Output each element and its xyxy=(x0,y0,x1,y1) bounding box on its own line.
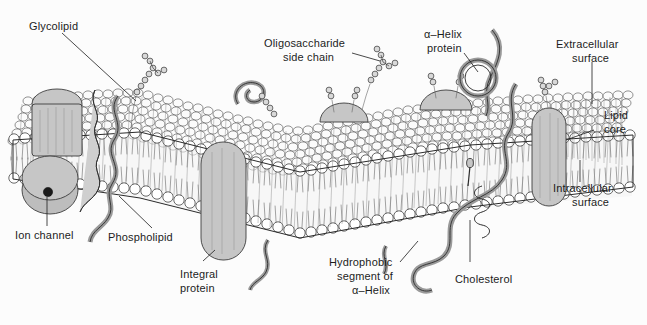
label-hydrophobic-line1: Hydrophobic xyxy=(329,256,393,268)
label-cholesterol: Cholesterol xyxy=(455,273,512,285)
ion-pore xyxy=(43,187,52,196)
integral-protein-capsule xyxy=(201,142,246,260)
label-integral-protein-line2: protein xyxy=(180,282,215,294)
label-alpha-helix-protein-line1: α–Helix xyxy=(424,28,462,40)
label-phospholipid: Phospholipid xyxy=(108,231,173,243)
label-lipid-core-line2: core xyxy=(604,123,626,135)
label-oligosaccharide-line2: side chain xyxy=(283,51,334,63)
left-transmembrane-protein xyxy=(32,89,82,156)
label-ion-channel: Ion channel xyxy=(15,229,74,241)
label-integral-protein-line1: Integral xyxy=(180,268,218,280)
label-alpha-helix-protein-line2: protein xyxy=(427,42,462,54)
label-extracellular-line2: surface xyxy=(572,52,609,64)
label-intracellular-line1: Intracellular xyxy=(553,182,612,194)
label-oligosaccharide-line1: Oligosaccharide xyxy=(264,37,345,49)
label-hydrophobic-line3: α–Helix xyxy=(352,284,390,296)
label-intracellular-line2: surface xyxy=(572,196,609,208)
label-extracellular-line1: Extracellular xyxy=(556,38,619,50)
label-lipid-core-line1: Lipid xyxy=(604,109,628,121)
ion-channel-protein xyxy=(22,156,78,214)
membrane-diagram: Glycolipid Oligosaccharide side chain α–… xyxy=(0,0,647,325)
label-hydrophobic-line2: segment of xyxy=(337,270,394,282)
label-glycolipid: Glycolipid xyxy=(29,20,78,32)
